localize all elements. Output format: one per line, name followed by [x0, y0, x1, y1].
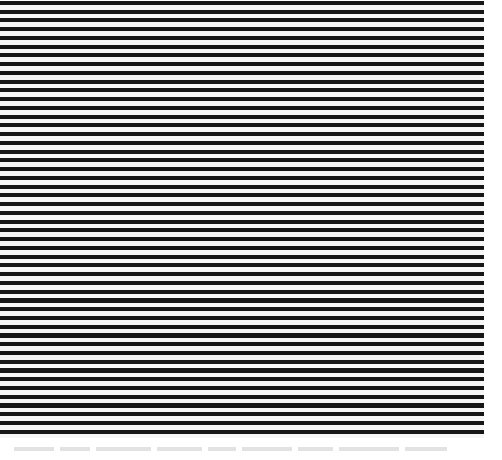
striped-pattern — [0, 1, 484, 438]
faint-footer-text — [14, 443, 474, 455]
